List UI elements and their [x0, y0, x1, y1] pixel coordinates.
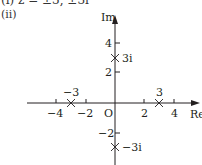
x-tick-label-neg4: −4	[47, 108, 63, 119]
y-tick-label-2: 2	[105, 67, 112, 78]
origin-label: O	[104, 108, 113, 119]
point-label-neg3i: −3i	[122, 142, 142, 153]
x-tick-label-neg2: −2	[77, 108, 93, 119]
point-label-3i: 3i	[122, 53, 133, 64]
x-tick-label-4: 4	[171, 108, 178, 119]
y-tick-label-4: 4	[105, 38, 112, 49]
real-axis-label: Re	[190, 109, 202, 120]
x-tick-label-2: 2	[141, 108, 148, 119]
imaginary-axis-label: Im	[101, 12, 116, 23]
point-label-neg3: −3	[63, 87, 79, 98]
argand-diagram	[0, 0, 202, 165]
point-label-3: 3	[156, 87, 163, 98]
y-tick-label-neg2: −2	[98, 128, 114, 139]
real-axis-arrow-icon	[191, 100, 200, 106]
